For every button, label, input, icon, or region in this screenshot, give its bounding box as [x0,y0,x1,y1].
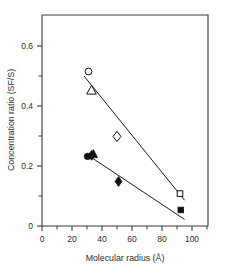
y-tick-label-0-6: 0.6 [21,41,33,51]
scatter-plot: 0 20 40 60 80 100 0 0.2 0.4 0.6 Molecula… [0,0,234,271]
filled-diamond-marker [115,177,122,187]
open-diamond-marker [113,131,121,141]
fit-line-open-series [84,76,185,200]
y-tick-label-0-2: 0.2 [21,161,33,171]
x-tick-label-0: 0 [40,234,45,244]
x-tick-label-100: 100 [185,234,199,244]
x-tick-label-40: 40 [97,234,107,244]
chart-figure: 0 20 40 60 80 100 0 0.2 0.4 0.6 Molecula… [0,0,234,271]
x-tick-label-20: 20 [67,234,77,244]
y-tick-labels: 0 0.2 0.4 0.6 [21,41,33,231]
x-tick-labels: 0 20 40 60 80 100 [40,234,200,244]
y-axis-title: Concentration ratio (SF/S) [6,69,16,171]
x-axis-title: Molecular radius (Å) [86,253,165,263]
y-tick-label-0: 0 [28,221,33,231]
filled-square-marker [178,207,184,213]
fit-line-filled-series [89,156,185,220]
open-square-marker [177,191,183,197]
open-circle-marker [85,68,92,75]
open-symbol-series [85,68,183,196]
x-tick-label-80: 80 [157,234,167,244]
y-tick-label-0-4: 0.4 [21,101,33,111]
x-tick-label-60: 60 [127,234,137,244]
